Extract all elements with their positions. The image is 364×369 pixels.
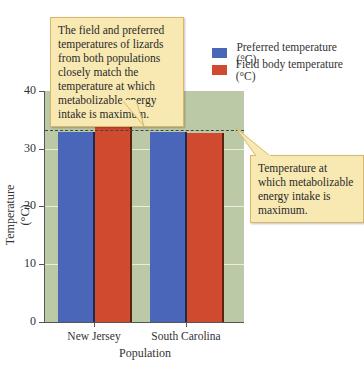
ytick [39,264,44,265]
y-axis [44,91,45,322]
xtick-sc [186,322,187,327]
annotation-main: The field and preferred temperatures of … [50,17,184,127]
ytick [39,322,44,323]
ytick [39,149,44,150]
ytick-label-40: 40 [12,83,36,98]
ytick-label-30: 30 [12,141,36,156]
legend-swatch-blue [212,48,227,58]
ytick-label-10: 10 [12,256,36,271]
ytick-label-0: 0 [12,314,36,329]
x-axis-title: Population [95,346,195,361]
xtick-nj [94,322,95,327]
bar-nj-field [95,126,130,322]
ytick [39,206,44,207]
xtick-label-south-carolina: South Carolina [136,330,236,342]
bar-nj-preferred [58,132,93,322]
bar-sc-preferred [150,132,185,322]
optimum-reference-line [45,130,244,131]
callout-pointer-main [120,100,150,130]
x-axis [44,322,244,323]
annotation-reference: Temperature at which metabolizable energ… [250,155,364,223]
legend-item-field: Field body temperature (°C) [212,63,355,77]
legend: Preferred temperature (°C) Field body te… [212,46,355,80]
ytick [39,91,44,92]
legend-swatch-red [212,65,227,75]
bar-sc-field [187,133,222,322]
legend-label-field: Field body temperature (°C) [236,58,355,82]
y-axis-title: Temperature (°C) [3,175,33,255]
callout-pointer-ref [236,128,276,158]
xtick-label-new-jersey: New Jersey [44,330,144,342]
